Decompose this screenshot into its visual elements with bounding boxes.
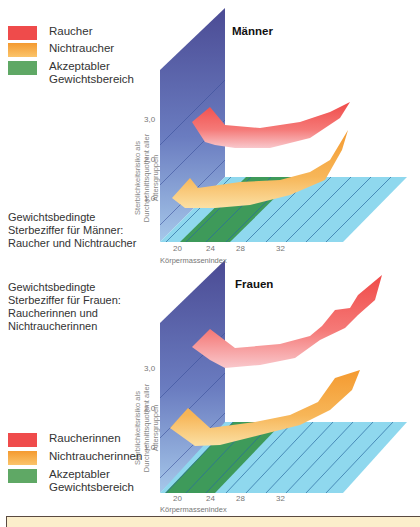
nonsmoker-swatch-icon [8, 451, 37, 465]
acceptable-swatch-icon [8, 61, 37, 75]
women-x-tick: 28 [236, 494, 245, 503]
women-y-tick: 1,0 [144, 443, 155, 452]
women-x-tick: 24 [206, 494, 215, 503]
men-y-tick: 1,0 [144, 194, 155, 203]
acceptable-swatch-icon [8, 469, 37, 483]
legend-label: Nichtraucher [49, 42, 114, 55]
women-y-tick: 3,0 [144, 364, 155, 373]
men-caption: Gewichtsbedingte Sterbeziffer für Männer… [8, 211, 136, 250]
men-y-axis-label: Sterblichkeitsrisiko als Durchschnittsqu… [133, 113, 160, 243]
men-legend-acceptable: Akzeptabler Gewichtsbereich [8, 60, 134, 86]
nonsmoker-swatch-icon [8, 43, 37, 57]
women-y-tick: 2,0 [144, 404, 155, 413]
women-x-tick: 32 [276, 494, 285, 503]
smoker-swatch-icon [8, 26, 37, 40]
men-legend-smoker: Raucher [8, 25, 92, 40]
men-x-tick: 20 [173, 244, 182, 253]
women-legend-acceptable: Akzeptabler Gewichtsbereich [8, 468, 134, 494]
bottom-info-box [6, 516, 420, 527]
men-x-tick: 24 [206, 244, 215, 253]
legend-label: Akzeptabler Gewichtsbereich [49, 60, 134, 86]
legend-label: Akzeptabler Gewichtsbereich [49, 468, 134, 494]
legend-label: Nichtraucherinnen [49, 450, 142, 463]
legend-label: Raucher [49, 25, 92, 38]
women-chart-title: Frauen [235, 278, 273, 290]
women-y-axis-label: Sterblichkeitsrisiko als Durchschnittsqu… [133, 363, 160, 493]
men-x-axis-label: Körpermassenindex [160, 256, 227, 265]
men-chart-title: Männer [232, 25, 273, 37]
men-legend-nonsmoker: Nichtraucher [8, 42, 114, 57]
men-chart [160, 8, 407, 242]
women-x-tick: 20 [173, 494, 182, 503]
men-x-tick: 28 [236, 244, 245, 253]
women-caption: Gewichtsbedingte Sterbeziffer für Frauen… [8, 281, 121, 333]
men-y-tick: 2,0 [144, 155, 155, 164]
women-x-axis-label: Körpermassenindex [160, 505, 227, 514]
women-legend-nonsmoker: Nichtraucherinnen [8, 450, 142, 465]
men-x-tick: 32 [276, 244, 285, 253]
smoker-swatch-icon [8, 433, 37, 447]
men-y-tick: 3,0 [144, 115, 155, 124]
women-chart [160, 260, 407, 493]
legend-label: Raucherinnen [49, 432, 121, 445]
women-legend-smoker: Raucherinnen [8, 432, 121, 447]
